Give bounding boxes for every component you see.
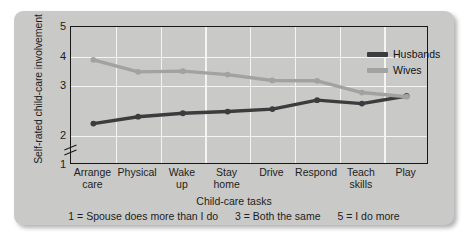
- y-tick-label-3: 3: [46, 79, 66, 91]
- data-point-husbands-0: [90, 121, 96, 127]
- legend-label-husbands: Husbands: [393, 48, 440, 60]
- x-tick-label-2: Wake up: [169, 167, 195, 190]
- x-tick-label-1: Physical: [118, 167, 157, 179]
- x-tick-line1: Stay: [216, 166, 237, 178]
- data-point-wives-5: [314, 78, 320, 84]
- legend-swatch-wives: [367, 68, 388, 73]
- data-point-wives-3: [225, 72, 231, 78]
- x-tick-line1: Respond: [295, 166, 337, 178]
- plot-area: Husbands Wives: [70, 26, 428, 164]
- y-tick-label-5: 5: [46, 20, 66, 32]
- x-tick-line2: skills: [347, 179, 375, 191]
- data-point-wives-6: [359, 90, 365, 96]
- x-tick-label-3: Stay home: [213, 167, 239, 190]
- data-point-wives-2: [180, 68, 186, 74]
- x-tick-line1: Physical: [118, 166, 157, 178]
- x-tick-line2: care: [74, 179, 111, 191]
- x-tick-line1: Drive: [259, 166, 284, 178]
- x-tick-line2: home: [213, 179, 239, 191]
- data-point-wives-7: [404, 94, 410, 100]
- x-tick-label-5: Respond: [295, 167, 337, 179]
- legend: Husbands Wives: [367, 47, 440, 79]
- y-tick-label-4: 4: [46, 50, 66, 62]
- y-tick-label-2: 2: [46, 129, 66, 141]
- data-point-wives-1: [135, 69, 141, 75]
- x-tick-label-4: Drive: [259, 167, 284, 179]
- figure-card: Self-rated child-care involvement 5 4 3 …: [14, 11, 454, 225]
- legend-swatch-husbands: [367, 52, 388, 57]
- x-tick-label-7: Play: [395, 167, 415, 179]
- x-tick-line1: Play: [395, 166, 415, 178]
- x-tick-line1: Arrange: [74, 166, 111, 178]
- scale-note-5: 5 = I do more: [337, 210, 399, 222]
- data-point-husbands-3: [225, 109, 231, 115]
- x-tick-line1: Teach: [347, 166, 375, 178]
- data-point-husbands-5: [314, 97, 320, 103]
- x-tick-line1: Wake: [169, 166, 195, 178]
- x-tick-label-0: Arrange care: [74, 167, 111, 190]
- legend-label-wives: Wives: [393, 64, 422, 76]
- legend-item-husbands: Husbands: [367, 47, 440, 61]
- legend-item-wives: Wives: [367, 63, 440, 77]
- data-point-wives-4: [269, 78, 275, 84]
- scale-note-3: 3 = Both the same: [235, 210, 321, 222]
- y-tick-label-1: 1: [46, 158, 66, 170]
- x-tick-line2: up: [169, 179, 195, 191]
- data-point-wives-0: [90, 57, 96, 63]
- x-axis-title: Child-care tasks: [14, 195, 454, 207]
- data-point-husbands-4: [269, 106, 275, 112]
- data-point-husbands-6: [359, 101, 365, 107]
- series-line-husbands: [93, 96, 406, 124]
- scale-legend-note: 1 = Spouse does more than I do 3 = Both …: [14, 210, 454, 222]
- scale-note-1: 1 = Spouse does more than I do: [68, 210, 218, 222]
- x-tick-label-6: Teach skills: [347, 167, 375, 190]
- data-point-husbands-2: [180, 110, 186, 116]
- data-point-husbands-1: [135, 114, 141, 120]
